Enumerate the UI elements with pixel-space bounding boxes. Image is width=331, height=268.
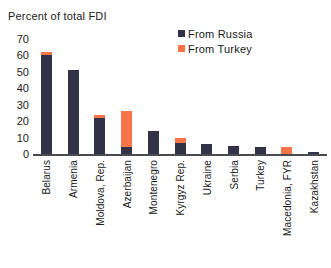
stacked-bar[interactable] <box>41 52 52 154</box>
stacked-bar[interactable] <box>68 70 79 154</box>
x-axis-category-label: Kazakhstan <box>308 160 319 213</box>
bar-group[interactable] <box>60 39 87 154</box>
x-axis-category-labels: BelarusArmeniaMoldova, Rep.AzerbaijanMon… <box>33 160 327 264</box>
y-axis-tick-label: 10 <box>17 132 29 144</box>
bar-group[interactable] <box>113 39 140 154</box>
bar-segment[interactable] <box>68 70 79 154</box>
legend-swatch-icon <box>178 30 185 37</box>
x-axis-category-label: Ukraine <box>201 160 212 195</box>
bar-group[interactable] <box>220 39 247 154</box>
y-axis-tick-label: 70 <box>17 33 29 45</box>
stacked-bar[interactable] <box>175 138 186 154</box>
x-axis-category-label: Armenia <box>68 160 79 198</box>
x-axis-category-label: Turkey <box>255 160 266 191</box>
x-label-slot: Moldova, Rep. <box>86 160 113 264</box>
x-axis-category-label: Serbia <box>228 160 239 190</box>
x-label-slot: Serbia <box>220 160 247 264</box>
x-label-slot: Azerbaijan <box>113 160 140 264</box>
y-axis-tick-label: 60 <box>17 49 29 61</box>
y-axis-tick-label: 20 <box>17 115 29 127</box>
stacked-bar[interactable] <box>228 146 239 154</box>
x-label-slot: Armenia <box>60 160 87 264</box>
y-axis-tick-label: 50 <box>17 66 29 78</box>
x-axis-category-label: Belarus <box>41 160 52 195</box>
x-label-slot: Kazakhstan <box>300 160 327 264</box>
bar-segment[interactable] <box>228 146 239 154</box>
bar-segment[interactable] <box>201 144 212 154</box>
y-axis-tick-label: 40 <box>17 82 29 94</box>
stacked-bar[interactable] <box>201 144 212 154</box>
x-label-slot: Macedonia, FYR <box>274 160 301 264</box>
stacked-bar[interactable] <box>121 111 132 154</box>
x-axis-category-label: Azerbaijan <box>121 160 132 208</box>
bar-segment[interactable] <box>41 55 52 154</box>
bar-group[interactable] <box>167 39 194 154</box>
bar-group[interactable] <box>140 39 167 154</box>
x-axis-category-label: Kyrgyz Rep. <box>175 160 186 216</box>
bar-series-group <box>33 39 327 154</box>
x-label-slot: Kyrgyz Rep. <box>167 160 194 264</box>
x-label-slot: Ukraine <box>193 160 220 264</box>
bar-segment[interactable] <box>121 111 132 147</box>
x-axis-line <box>33 154 327 156</box>
x-label-slot: Turkey <box>247 160 274 264</box>
stacked-bar[interactable] <box>148 131 159 154</box>
bar-segment[interactable] <box>175 143 186 155</box>
bar-group[interactable] <box>300 39 327 154</box>
bar-group[interactable] <box>274 39 301 154</box>
bar-group[interactable] <box>86 39 113 154</box>
x-axis-category-label: Moldova, Rep. <box>94 160 105 226</box>
y-axis-tick-label: 0 <box>23 148 29 160</box>
chart-axis-title: Percent of total FDI <box>8 10 107 22</box>
stacked-bar[interactable] <box>94 115 105 154</box>
x-label-slot: Belarus <box>33 160 60 264</box>
plot-area: 706050403020100 <box>33 39 327 156</box>
bar-group[interactable] <box>247 39 274 154</box>
x-axis-category-label: Montenegro <box>148 160 159 214</box>
y-axis-tick-label: 30 <box>17 99 29 111</box>
bar-group[interactable] <box>193 39 220 154</box>
bar-segment[interactable] <box>148 131 159 154</box>
legend-item-label: From Russia <box>188 28 253 40</box>
x-axis-category-label: Macedonia, FYR <box>281 160 292 236</box>
fdi-stacked-bar-chart: Percent of total FDI From RussiaFrom Tur… <box>0 0 331 268</box>
bar-segment[interactable] <box>94 118 105 154</box>
x-label-slot: Montenegro <box>140 160 167 264</box>
bar-group[interactable] <box>33 39 60 154</box>
